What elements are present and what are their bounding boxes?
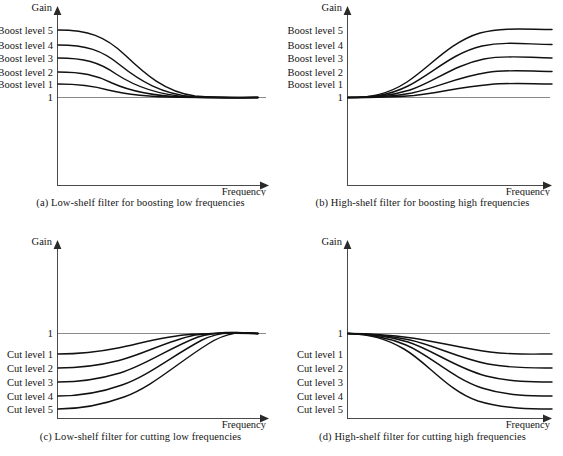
panel-c-curve-cut-level-1 (58, 333, 258, 354)
panel-d-label-cut-level-4: Cut level 4 (297, 391, 344, 402)
panel-a-x-axis-title: Frequency (222, 186, 267, 196)
panel-d-high-shelf-cut: Gain Frequency 1 Cut level 1 Cut level 2… (282, 228, 563, 456)
panel-a-label-boost-level-2: Boost level 2 (0, 67, 53, 78)
panel-d-label-cut-level-5: Cut level 5 (297, 404, 343, 415)
panel-a-caption: (a) Low-shelf filter for boosting low fr… (0, 196, 281, 209)
panel-a-label-boost-level-4: Boost level 4 (0, 40, 54, 51)
panel-d-label-cut-level-2: Cut level 2 (297, 363, 343, 374)
panel-c-low-shelf-cut: Gain Frequency 1 Cut level 1 Cut level 2… (0, 228, 281, 456)
panel-b-high-shelf-boost: Gain Frequency 1 Boost level 5 Boost lev… (282, 0, 563, 228)
panel-a-curve-boost-level-4 (58, 45, 258, 98)
panel-c-curve-cut-level-2 (58, 333, 258, 368)
panel-a-label-boost-level-1: Boost level 1 (0, 79, 53, 90)
panel-b-unity-label: 1 (338, 91, 344, 103)
panel-b-label-boost-level-4: Boost level 4 (288, 40, 344, 51)
panel-a-curve-boost-level-2 (58, 72, 258, 98)
panel-c-x-axis-title: Frequency (222, 419, 267, 430)
panel-c-curve-cut-level-5 (58, 333, 258, 409)
panel-d-y-axis-title: Gain (322, 236, 343, 247)
panel-b-curve-boost-level-3 (348, 57, 552, 98)
panel-a-low-shelf-boost: Gain Frequency 1 Boost level 5 Boost lev… (0, 0, 281, 228)
panel-c-caption: (c) Low-shelf filter for cutting low fre… (0, 430, 281, 443)
panel-a-plot: Gain Frequency 1 Boost level 5 Boost lev… (0, 0, 281, 196)
panel-b-label-boost-level-2: Boost level 2 (288, 67, 343, 78)
panel-c-label-cut-level-4: Cut level 4 (7, 391, 54, 402)
shelving-filter-figure: Gain Frequency 1 Boost level 5 Boost lev… (0, 0, 563, 456)
panel-b-plot: Gain Frequency 1 Boost level 5 Boost lev… (282, 0, 563, 196)
panel-d-x-axis-title: Frequency (506, 419, 551, 430)
panel-d-caption: (d) High-shelf filter for cutting high f… (282, 430, 563, 443)
panel-c-label-cut-level-5: Cut level 5 (7, 404, 53, 415)
panel-a-curve-boost-level-5 (58, 30, 258, 98)
panel-b-label-boost-level-1: Boost level 1 (288, 79, 343, 90)
panel-d-label-cut-level-1: Cut level 1 (297, 349, 343, 360)
panel-b-curves (348, 29, 552, 98)
panel-a-curves (58, 30, 258, 98)
panel-d-curves (348, 334, 552, 410)
panel-b-caption: (b) High-shelf filter for boosting high … (282, 196, 563, 209)
panel-c-curve-cut-level-4 (58, 332, 258, 396)
panel-c-plot: Gain Frequency 1 Cut level 1 Cut level 2… (0, 228, 281, 430)
panel-a-y-axis-title: Gain (32, 2, 53, 13)
panel-d-plot: Gain Frequency 1 Cut level 1 Cut level 2… (282, 228, 563, 430)
panel-c-label-cut-level-1: Cut level 1 (7, 349, 53, 360)
panel-c-curves (58, 332, 258, 409)
panel-d-label-cut-level-3: Cut level 3 (297, 377, 343, 388)
panel-a-label-boost-level-3: Boost level 3 (0, 53, 53, 64)
panel-c-label-cut-level-2: Cut level 2 (7, 363, 53, 374)
panel-b-label-boost-level-5: Boost level 5 (288, 25, 343, 36)
panel-b-y-axis-title: Gain (322, 2, 343, 13)
panel-a-curve-boost-level-3 (58, 58, 258, 98)
panel-c-label-cut-level-3: Cut level 3 (7, 377, 53, 388)
panel-d-curve-cut-level-2 (348, 334, 552, 369)
panel-b-x-axis-title: Frequency (506, 186, 551, 196)
panel-d-curve-cut-level-3 (348, 334, 552, 383)
panel-b-curve-boost-level-5 (348, 29, 552, 98)
panel-c-unity-label: 1 (48, 327, 54, 339)
panel-c-axes (54, 240, 269, 422)
panel-a-unity-label: 1 (48, 91, 54, 103)
panel-d-unity-label: 1 (338, 327, 344, 339)
panel-d-curve-cut-level-4 (348, 334, 552, 397)
panel-a-label-boost-level-5: Boost level 5 (0, 25, 53, 36)
panel-c-y-axis-title: Gain (32, 236, 53, 247)
panel-b-label-boost-level-3: Boost level 3 (288, 53, 343, 64)
